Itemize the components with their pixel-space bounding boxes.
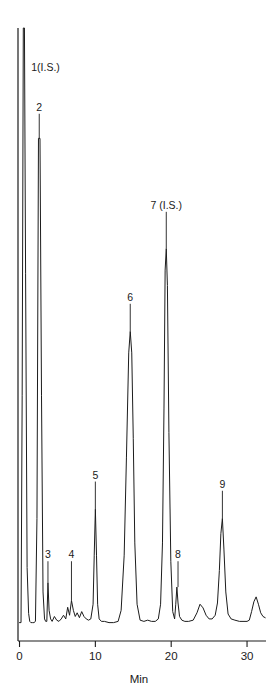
- peak-6-label: 6: [127, 291, 133, 303]
- x-axis-tick-label: 0: [16, 650, 22, 662]
- x-axis-tick-labels: 0102030: [16, 650, 253, 662]
- chromatogram-plot: 0102030 1(I.S.)234567 (I.S.)89 Min: [0, 0, 278, 699]
- peak-annotations: 1(I.S.)234567 (I.S.)89: [23, 28, 225, 601]
- x-axis-title: Min: [130, 673, 149, 685]
- chromatogram-figure: 0102030 1(I.S.)234567 (I.S.)89 Min: [0, 0, 278, 699]
- peak-1-label: 1(I.S.): [31, 61, 60, 73]
- peak-9-label: 9: [219, 478, 225, 490]
- peak-4-label: 4: [69, 548, 75, 560]
- peak-3-label: 3: [45, 548, 51, 560]
- x-axis-tick-label: 30: [241, 650, 254, 662]
- x-axis-ticks: [20, 641, 248, 647]
- peak-5-label: 5: [92, 469, 98, 481]
- peak-7-label: 7 (I.S.): [151, 199, 183, 211]
- chromatogram-trace: [20, 28, 266, 623]
- x-axis-tick-label: 20: [165, 650, 178, 662]
- peak-2-label: 2: [36, 101, 42, 113]
- peak-8-label: 8: [175, 548, 181, 560]
- x-axis-tick-label: 10: [89, 650, 102, 662]
